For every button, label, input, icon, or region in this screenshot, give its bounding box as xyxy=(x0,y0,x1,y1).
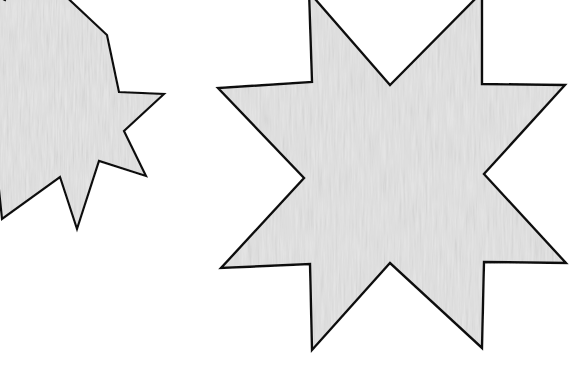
scene-canvas xyxy=(0,0,570,365)
star-shapes-svg xyxy=(0,0,570,365)
